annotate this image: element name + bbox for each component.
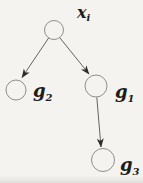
node-root-label-base: x: [76, 3, 87, 22]
node-grandchild-label-base: g: [120, 154, 133, 175]
node-grandchild-circle: [92, 149, 115, 172]
edge-root-to-right-child: [60, 37, 90, 74]
edge-root-to-left-child: [22, 38, 49, 78]
node-right-child-circle: [85, 75, 107, 97]
node-grandchild-label: g3: [120, 154, 140, 177]
node-left-child-label: g2: [33, 80, 53, 103]
node-right-child-label: g1: [115, 81, 135, 104]
node-left-child-circle: [6, 80, 26, 100]
node-left-child-label-sub: 2: [45, 92, 53, 103]
node-root-label: xi: [76, 3, 91, 23]
figure: xi g2 g1 g3: [0, 0, 143, 183]
node-root-circle: [45, 21, 64, 40]
node-root-label-sub: i: [87, 12, 91, 23]
tree-diagram: xi g2 g1 g3: [0, 0, 143, 183]
node-right-child-label-sub: 1: [128, 93, 135, 104]
node-grandchild-label-sub: 3: [133, 166, 140, 177]
edge-right-child-to-grandchild: [97, 97, 101, 147]
node-right-child-label-base: g: [115, 81, 128, 102]
node-left-child-label-base: g: [33, 80, 46, 101]
